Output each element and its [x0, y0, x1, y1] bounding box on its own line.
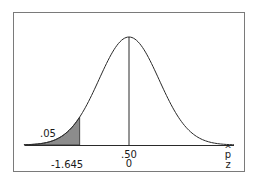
center-z-label: 0 — [126, 158, 132, 169]
normal-curve-figure: .05 -1.645 .50 0 ^ p z — [0, 0, 253, 185]
axis-z-label: z — [225, 159, 230, 170]
tail-area-label: .05 — [40, 128, 56, 139]
critical-z-label: -1.645 — [51, 159, 83, 170]
